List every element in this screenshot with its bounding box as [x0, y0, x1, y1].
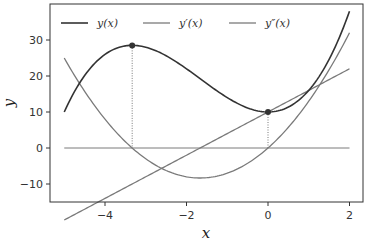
axes-frame	[50, 4, 363, 202]
legend: y(x)y′(x)y″(x)	[61, 17, 290, 30]
y-tick-label: 30	[29, 34, 43, 47]
chart: −4−202 −100102030 x y y(x)y′(x)y″(x)	[0, 0, 369, 246]
extremum-marker	[129, 42, 135, 48]
y-tick-label: 20	[29, 70, 43, 83]
x-tick-label: 2	[346, 209, 353, 222]
legend-entry-label: y′(x)	[178, 17, 203, 30]
x-axis-label: x	[202, 224, 211, 242]
y-axis-label: y	[0, 98, 18, 108]
x-tick-label: −4	[97, 209, 113, 222]
extremum-marker	[265, 109, 271, 115]
legend-entry-label: y(x)	[96, 17, 118, 30]
series-line-1	[64, 33, 349, 178]
y-tick-label: −10	[20, 178, 43, 191]
legend-entry-label: y″(x)	[264, 17, 290, 30]
plot-area	[64, 11, 349, 220]
x-tick-label: −2	[178, 209, 194, 222]
y-axis-ticks: −100102030	[20, 34, 50, 191]
x-tick-label: 0	[265, 209, 272, 222]
x-axis-ticks: −4−202	[97, 202, 353, 222]
y-tick-label: 10	[29, 106, 43, 119]
y-tick-label: 0	[36, 142, 43, 155]
